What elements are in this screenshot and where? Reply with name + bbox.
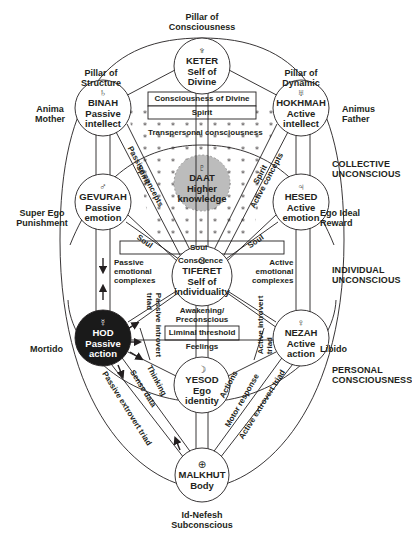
path-liminal-threshold: Liminal threshold: [166, 328, 238, 337]
ego-ideal-label: Ego Ideal Reward: [320, 208, 360, 228]
sephira-hod: ☿ HOD Passive action: [85, 317, 120, 360]
path-transpersonal: Transpersonal consciousness: [148, 128, 256, 137]
path-consciousness-of-divine: Consciousness of Divine: [150, 94, 254, 103]
animus-label: Animus Father: [342, 104, 375, 124]
sephira-gevurah: ♂ GEVURAH Passive emotion: [79, 181, 127, 224]
path-passive-introvert-triad: Passive introvert triad: [145, 293, 163, 357]
pillar-structure-label: Pillar of Structure: [76, 68, 126, 88]
pillar-consciousness-label: Pillar of Consciousness: [165, 12, 239, 32]
path-active-emotional-complexes: Active emotional complexes: [252, 258, 293, 285]
path-active-introvert-triad: Active introvert triad: [256, 296, 274, 355]
sephira-yesod: ☽ YESOD Ego identity: [185, 364, 219, 407]
mortido-label: Mortido: [30, 344, 63, 354]
sephira-daat: ♇ DAAT Higher knowledge: [177, 162, 226, 205]
path-awakening: Awakening/ Preconscious: [172, 306, 232, 324]
anima-label: Anima Mother: [28, 104, 72, 124]
sephira-keter: ♆ KETER Self of Divine: [186, 45, 218, 88]
pillar-dynamic-label: Pillar of Dynamic: [276, 68, 326, 88]
path-conscience: Conscience: [178, 256, 223, 265]
sephira-malkhut: ⊕ MALKHUT Body: [179, 459, 226, 491]
path-passive-emotional-complexes: Passive emotional complexes: [114, 258, 155, 285]
path-feelings: Feelings: [180, 342, 224, 351]
path-spirit-top: Spirit: [150, 108, 254, 117]
zone-collective-label: COLLECTIVE UNCONSCIOUS: [332, 159, 401, 179]
sephira-hesed: ♃ HESED Active emotion: [283, 181, 320, 224]
super-ego-label: Super Ego Punishment: [14, 208, 70, 228]
sephira-hokhmah: ♅ HOKHMAH Active intellect: [276, 87, 326, 130]
sephira-nezah: ♀ NEZAH Active action: [285, 317, 318, 360]
id-nefesh-label: Id-Nefesh Subconscious: [162, 510, 242, 530]
zone-individual-label: INDIVIDUAL UNCONSCIOUS: [332, 265, 401, 285]
zone-personal-label: PERSONAL CONSCIOUSNESS: [332, 365, 412, 385]
sephira-binah: ♄ BINAH Passive intellect: [85, 87, 121, 130]
libido-label: Libido: [320, 344, 347, 354]
path-soul-mid: Soul: [190, 243, 207, 252]
